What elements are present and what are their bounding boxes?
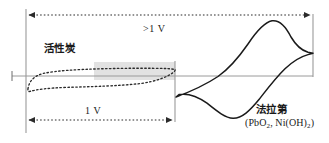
cv-comparison-figure: 活性炭 >1 V 1 V 法拉第 (PbO2, Ni(OH)2) (0, 0, 329, 143)
shaded-overlap-region (94, 62, 175, 80)
faradaic-materials-label: (PbO2, Ni(OH)2) (245, 118, 314, 129)
faradaic-cv-curve (176, 21, 313, 119)
formula-suffix: ) (311, 117, 314, 128)
total-voltage-window-label: >1 V (143, 24, 166, 35)
formula-mid: , Ni(OH) (270, 117, 307, 128)
formula-sub-1: 2 (267, 122, 271, 130)
carbon-voltage-window-label: 1 V (85, 106, 101, 117)
faradaic-label: 法拉第 (256, 104, 287, 115)
activated-carbon-label: 活性炭 (44, 43, 75, 54)
formula-sub-2: 2 (307, 122, 311, 130)
formula-prefix: (PbO (245, 117, 267, 128)
